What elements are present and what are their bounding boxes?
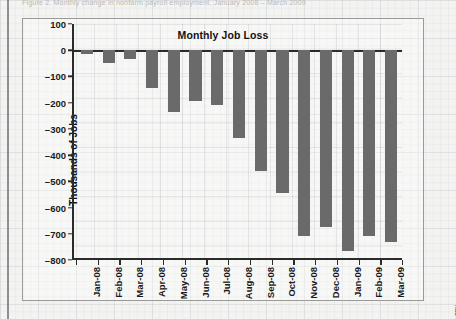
x-tick-mark bbox=[359, 260, 360, 265]
x-tick-label: Feb-08 bbox=[113, 267, 124, 298]
x-tick-label: Aug-08 bbox=[243, 267, 254, 299]
bar bbox=[233, 50, 245, 138]
bar bbox=[168, 50, 180, 112]
page-margin-rule bbox=[7, 0, 9, 319]
bar bbox=[124, 50, 136, 59]
y-tick-label: –700 bbox=[45, 228, 66, 239]
x-tick-label: Sep-08 bbox=[265, 267, 276, 298]
y-tick-label: 100 bbox=[50, 19, 66, 30]
x-tick-label: Oct-08 bbox=[286, 267, 297, 297]
y-tick-label: –500 bbox=[45, 176, 66, 187]
x-tick-label: May-08 bbox=[178, 267, 189, 299]
bar bbox=[211, 50, 223, 105]
y-tick-label: –600 bbox=[45, 202, 66, 213]
x-tick-label: Jan-08 bbox=[91, 267, 102, 297]
x-tick-label: Apr-08 bbox=[156, 267, 167, 297]
y-tick-mark bbox=[68, 102, 72, 103]
x-tick-mark bbox=[141, 260, 142, 265]
bar bbox=[255, 50, 267, 171]
x-tick-mark bbox=[228, 260, 229, 265]
y-tick-mark bbox=[68, 154, 72, 155]
y-axis-line bbox=[72, 24, 74, 260]
x-tick-label: Feb-09 bbox=[373, 267, 384, 298]
y-tick-label: –400 bbox=[45, 150, 66, 161]
y-tick-label: –200 bbox=[45, 97, 66, 108]
x-tick-mark bbox=[315, 260, 316, 265]
x-tick-mark bbox=[76, 260, 77, 265]
y-tick-label: –300 bbox=[45, 123, 66, 134]
x-tick-label: Jul-08 bbox=[221, 267, 232, 294]
y-tick-mark bbox=[68, 76, 72, 77]
x-axis-line bbox=[72, 258, 402, 260]
x-tick-label: Dec-08 bbox=[330, 267, 341, 298]
x-tick-mark bbox=[250, 260, 251, 265]
x-tick-mark bbox=[293, 260, 294, 265]
x-tick-mark bbox=[119, 260, 120, 265]
y-tick-mark bbox=[68, 233, 72, 234]
bar bbox=[81, 50, 93, 54]
x-tick-label: Jan-09 bbox=[352, 267, 363, 297]
cropped-figure-caption: Figure 2. Monthly change in nonfarm payr… bbox=[22, 0, 442, 7]
x-tick-mark bbox=[272, 260, 273, 265]
bar bbox=[298, 50, 310, 236]
x-tick-mark bbox=[98, 260, 99, 265]
bar bbox=[363, 50, 375, 236]
y-tick-mark bbox=[68, 23, 72, 24]
y-tick-label: –800 bbox=[45, 255, 66, 266]
x-tick-mark bbox=[337, 260, 338, 265]
bar bbox=[342, 50, 354, 251]
bar bbox=[385, 50, 397, 241]
y-tick-label: 0 bbox=[61, 45, 66, 56]
x-tick-mark bbox=[185, 260, 186, 265]
x-tick-mark bbox=[402, 260, 403, 265]
x-tick-label: Jun-08 bbox=[200, 267, 211, 298]
y-tick-mark bbox=[68, 181, 72, 182]
y-tick-mark bbox=[68, 207, 72, 208]
y-tick-label: –100 bbox=[45, 71, 66, 82]
x-tick-label: Nov-08 bbox=[308, 267, 319, 299]
plot-area: 1000–100–200–300–400–500–600–700–800 Jan… bbox=[72, 24, 402, 260]
bar bbox=[189, 50, 201, 101]
x-tick-mark bbox=[380, 260, 381, 265]
bar bbox=[103, 50, 115, 63]
bar bbox=[146, 50, 158, 88]
x-tick-mark bbox=[206, 260, 207, 265]
y-tick-mark bbox=[68, 259, 72, 260]
x-tick-label: Mar-08 bbox=[134, 267, 145, 298]
chart-frame: Monthly Job Loss Thousands of Jobs 1000–… bbox=[22, 18, 424, 301]
y-tick-mark bbox=[68, 128, 72, 129]
y-tick-mark bbox=[68, 50, 72, 51]
x-tick-label: Mar-09 bbox=[395, 267, 406, 298]
x-tick-mark bbox=[163, 260, 164, 265]
bar bbox=[276, 50, 288, 193]
bar bbox=[320, 50, 332, 227]
